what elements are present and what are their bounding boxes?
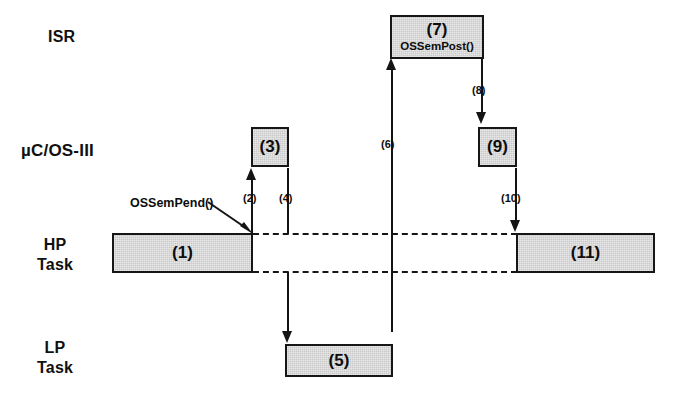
block-5: (5) bbox=[285, 344, 393, 377]
block-3: (3) bbox=[251, 127, 289, 167]
lane-label-lp-task: LP Task bbox=[37, 338, 73, 378]
connector-6-line bbox=[391, 70, 393, 332]
diagram-canvas: ISR µC/OS-III HP Task LP Task (1) (3) (5… bbox=[0, 0, 683, 409]
connector-6-arrowhead-icon bbox=[386, 58, 396, 70]
block-9-number: (9) bbox=[487, 138, 508, 156]
block-7: (7) OSSemPost() bbox=[390, 15, 484, 59]
lane-label-isr: ISR bbox=[48, 27, 75, 47]
block-7-api-label: OSSemPost() bbox=[400, 40, 474, 53]
connector-2-arrowhead-icon bbox=[246, 168, 256, 180]
block-5-number: (5) bbox=[329, 352, 350, 370]
lane-label-ucos: µC/OS-III bbox=[21, 140, 94, 161]
block-9: (9) bbox=[478, 127, 517, 167]
step-label-10: (10) bbox=[501, 192, 521, 204]
block-11-number: (11) bbox=[571, 244, 600, 262]
connector-8-arrowhead-icon bbox=[476, 112, 486, 124]
connector-hp-to-lp-line bbox=[287, 272, 289, 332]
connector-10-arrowhead-icon bbox=[510, 220, 520, 232]
block-1-number: (1) bbox=[172, 244, 193, 262]
callout-leader-arrow-icon bbox=[206, 200, 258, 240]
hp-task-lifeline-top bbox=[253, 233, 517, 235]
hp-task-lifeline-bottom bbox=[253, 271, 517, 273]
callout-ossempend-label: OSSemPend() bbox=[130, 196, 213, 210]
step-label-8: (8) bbox=[472, 84, 485, 96]
connector-hp-to-lp-arrowhead-icon bbox=[282, 331, 292, 343]
lane-label-hp-task: HP Task bbox=[37, 235, 73, 275]
step-label-6: (6) bbox=[381, 138, 394, 150]
step-label-4: (4) bbox=[279, 192, 292, 204]
block-11: (11) bbox=[516, 233, 655, 273]
block-7-number: (7) bbox=[427, 21, 448, 39]
block-3-number: (3) bbox=[260, 138, 281, 156]
